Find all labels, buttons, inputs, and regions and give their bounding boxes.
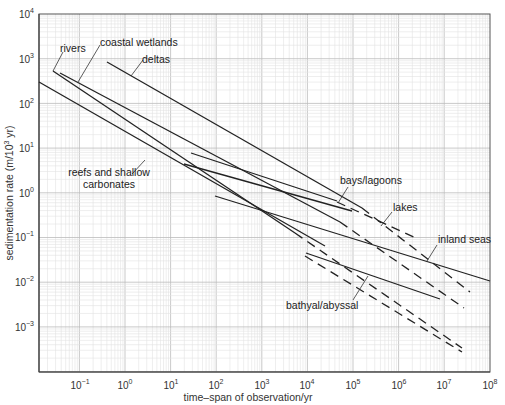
y-tick: 103 bbox=[19, 52, 34, 65]
y-tick: 100 bbox=[19, 186, 34, 199]
line-deltas bbox=[107, 62, 362, 208]
x-tick-labels: 10−1 100 101 102 103 104 105 106 107 108 bbox=[70, 378, 497, 391]
y-tick-labels: 104 103 102 101 100 10−1 10−2 10−3 bbox=[15, 7, 34, 333]
label-inland-seas: inland seas bbox=[438, 233, 491, 245]
label-coastal-wetlands: coastal wetlands bbox=[100, 36, 178, 48]
x-tick: 101 bbox=[163, 378, 178, 391]
y-tick: 102 bbox=[19, 97, 34, 110]
x-tick: 100 bbox=[117, 378, 132, 391]
line-reefs bbox=[39, 82, 325, 246]
y-tick: 10−3 bbox=[15, 320, 34, 333]
line-rivers bbox=[53, 71, 295, 233]
label-deltas: deltas bbox=[142, 53, 170, 65]
label-rivers: rivers bbox=[60, 42, 86, 54]
y-tick: 101 bbox=[19, 141, 34, 154]
label-reefs-line2: carbonates bbox=[83, 178, 135, 190]
grid bbox=[39, 14, 490, 372]
x-tick: 104 bbox=[299, 378, 314, 391]
y-tick: 10−2 bbox=[15, 275, 34, 288]
x-tick: 102 bbox=[208, 378, 223, 391]
x-tick: 106 bbox=[391, 378, 406, 391]
x-tick: 103 bbox=[254, 378, 269, 391]
label-reefs-line1: reefs and shallow bbox=[68, 166, 150, 178]
label-bathyal-abyssal: bathyal/abyssal bbox=[286, 299, 358, 311]
y-tick: 104 bbox=[19, 7, 34, 20]
x-tick: 105 bbox=[345, 378, 360, 391]
line-bays-lagoons bbox=[191, 153, 337, 201]
label-lakes: lakes bbox=[393, 201, 418, 213]
x-axis-title: time–span of observation/yr bbox=[184, 391, 313, 403]
sedimentation-chart: 10−1 100 101 102 103 104 105 106 107 108… bbox=[0, 0, 505, 405]
label-bays-lagoons: bays/lagoons bbox=[340, 174, 402, 186]
y-axis-title: sedimentation rate (m/103 yr) bbox=[3, 125, 15, 260]
x-tick: 108 bbox=[482, 378, 497, 391]
x-tick: 107 bbox=[436, 378, 451, 391]
x-tick: 10−1 bbox=[70, 378, 89, 391]
y-tick: 10−1 bbox=[15, 230, 34, 243]
